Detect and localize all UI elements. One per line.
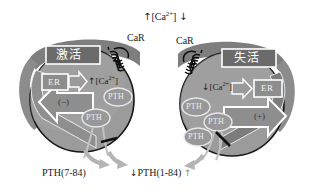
- top-calcium-text: [Ca: [151, 11, 165, 22]
- pth-calcium-regulation-diagram: ↑[Ca2+] ↓ CaR CaR 激活 失活 ER ↑[Ca2+] ↓[Ca2…: [0, 0, 325, 195]
- right-calcium-arrow: ↓: [202, 82, 210, 92]
- pth-1-84-down-arrow: ↓: [130, 168, 138, 178]
- left-center-secretion-arrow: [109, 152, 128, 169]
- diagram-canvas: [0, 0, 325, 195]
- pth-1-84-text: PTH(1-84): [138, 167, 182, 178]
- right-pth-vesicle-1-label: PTH: [186, 103, 202, 111]
- top-calcium-bracket: ]: [173, 11, 176, 22]
- right-er-label: ER: [261, 84, 274, 93]
- left-calcium-arrow: ↑: [88, 76, 96, 86]
- pth-7-84-label: PTH(7-84): [42, 168, 86, 178]
- left-calcium-bracket: ]: [115, 76, 118, 86]
- right-calcium-bracket: ]: [229, 82, 232, 92]
- left-pth-vesicle-1-label: PTH: [108, 93, 124, 101]
- top-calcium-label: ↑[Ca2+] ↓: [143, 12, 187, 22]
- pth-1-84-label: ↓PTH(1-84) ↑: [130, 168, 191, 178]
- top-calcium-charge: 2+: [166, 10, 173, 17]
- right-sign-label: (+): [254, 112, 265, 121]
- right-calcium-label: ↓[Ca2+]: [202, 83, 232, 92]
- right-state-label: 失活: [234, 52, 260, 64]
- right-car-label: CaR: [176, 36, 194, 46]
- pth-1-84-up-arrow: ↑: [184, 168, 192, 178]
- left-calcium-text: [Ca: [96, 76, 109, 86]
- right-pth-vesicle-3-label: PTH: [188, 133, 204, 141]
- left-calcium-label: ↑[Ca2+]: [88, 77, 118, 86]
- left-pth-vesicle-2-label: PTH: [86, 114, 102, 122]
- right-pth-vesicle-2-label: PTH: [208, 118, 224, 126]
- left-car-label: CaR: [127, 33, 145, 43]
- left-state-label: 激活: [56, 49, 82, 61]
- left-sign-label: (−): [58, 98, 69, 107]
- right-calcium-text: [Ca: [210, 82, 223, 92]
- top-down-arrow: ↓: [179, 11, 187, 22]
- left-er-label: ER: [48, 78, 61, 87]
